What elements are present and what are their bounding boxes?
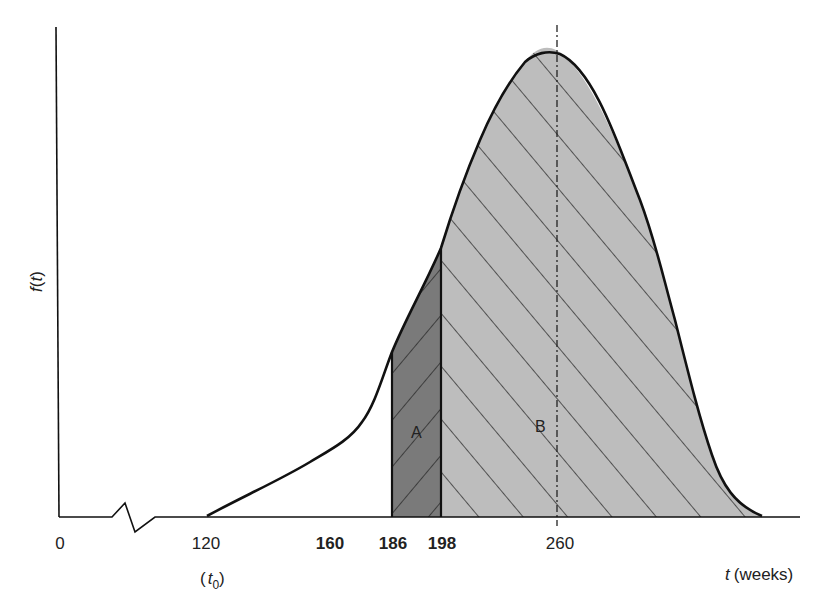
y-axis bbox=[56, 27, 59, 517]
tick-186: 186 bbox=[379, 534, 407, 553]
tick-120: 120 bbox=[192, 534, 220, 553]
tick-0: 0 bbox=[55, 534, 64, 553]
tick-198: 198 bbox=[428, 534, 456, 553]
region-b bbox=[440, 48, 762, 517]
t0-label: (t0) bbox=[200, 569, 225, 592]
y-axis-label: f(t) bbox=[27, 271, 46, 292]
region-a bbox=[392, 248, 441, 517]
chart: 0 120 160 186 198 260 (t0) t(weeks) f(t)… bbox=[0, 0, 828, 610]
x-axis-label: t(weeks) bbox=[725, 565, 793, 584]
tick-260: 260 bbox=[546, 534, 574, 553]
region-a-label: A bbox=[411, 424, 422, 441]
tick-160: 160 bbox=[316, 534, 344, 553]
region-b-label: B bbox=[535, 418, 546, 435]
